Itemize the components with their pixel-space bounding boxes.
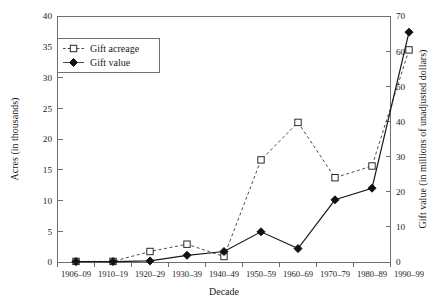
y-axis-right-ticks: 0 10 20 30 40 50 — [386, 11, 406, 267]
y-tick-label: 20 — [43, 134, 53, 144]
y-tick-label: 40 — [43, 11, 53, 21]
legend-label: Gift value — [90, 57, 131, 68]
y-tick-0: 0 — [47, 257, 62, 267]
y-tick-label: 0 — [47, 257, 52, 267]
data-point-marker — [257, 228, 265, 236]
x-tick-label: 1920–29 — [135, 269, 165, 279]
y-tick-label: 25 — [43, 104, 53, 114]
data-point-marker — [184, 241, 190, 247]
x-tick-label: 1950–59 — [246, 269, 276, 279]
y2-tick-2: 20 — [386, 187, 406, 197]
y2-tick-label: 0 — [396, 257, 401, 267]
y-tick-2: 10 — [43, 196, 63, 206]
data-point-marker — [295, 119, 301, 125]
data-point-marker — [369, 163, 375, 169]
y-axis-left-title: Acres (in thousands) — [9, 98, 21, 181]
y2-tick-1: 10 — [386, 222, 406, 232]
y-tick-label: 15 — [43, 165, 53, 175]
data-point-marker — [147, 248, 153, 254]
data-point-marker — [406, 47, 412, 53]
data-point-marker — [183, 251, 191, 259]
y-tick-4: 20 — [43, 134, 63, 144]
y-tick-6: 30 — [43, 73, 63, 83]
x-tick-label: 1970–79 — [320, 269, 350, 279]
x-tick-label: 1940–49 — [209, 269, 239, 279]
y-tick-8: 40 — [43, 11, 63, 21]
line-chart-figure: 0 5 10 15 20 25 — [0, 0, 438, 304]
x-axis-labels: 1906–09 1910–19 1920–29 1930–39 1940–49 … — [61, 269, 424, 279]
data-point-marker — [405, 28, 413, 36]
x-tick-label: 1906–09 — [61, 269, 91, 279]
y-tick-5: 25 — [43, 104, 63, 114]
y-axis-right-title: Gift value (in millions of unadjusted do… — [417, 50, 429, 229]
y2-tick-3: 30 — [386, 152, 406, 162]
y2-tick-label: 40 — [396, 117, 406, 127]
series-gift-acreage — [73, 47, 412, 265]
chart-container: 0 5 10 15 20 25 — [0, 0, 438, 304]
chart-legend: Gift acreage Gift value — [58, 39, 160, 73]
y2-tick-6: 60 — [386, 47, 406, 57]
x-tick-label: 1990–99 — [394, 269, 424, 279]
data-point-marker — [332, 175, 338, 181]
legend-label: Gift acreage — [90, 43, 140, 54]
x-tick-label: 1960–69 — [283, 269, 313, 279]
y-tick-label: 5 — [47, 227, 52, 237]
y2-tick-7: 70 — [386, 11, 406, 21]
y-tick-label: 10 — [43, 196, 53, 206]
data-point-marker — [368, 184, 376, 192]
legend-marker-open-square — [70, 45, 76, 51]
y-tick-label: 35 — [43, 42, 53, 52]
data-point-marker — [258, 157, 264, 163]
y2-tick-label: 70 — [396, 11, 406, 21]
gift-acreage-line — [76, 50, 409, 262]
y-tick-1: 5 — [47, 227, 62, 237]
x-axis-title: Decade — [209, 286, 240, 297]
x-tick-label: 1910–19 — [98, 269, 128, 279]
y2-tick-label: 10 — [396, 222, 406, 232]
x-tick-label: 1980–89 — [357, 269, 387, 279]
y2-tick-label: 20 — [396, 187, 406, 197]
data-point-marker — [146, 257, 154, 265]
y2-tick-label: 30 — [396, 152, 406, 162]
y-tick-3: 15 — [43, 165, 63, 175]
x-tick-label: 1930–39 — [172, 269, 202, 279]
legend-item-gift-value[interactable]: Gift value — [63, 57, 131, 68]
y2-tick-0: 0 — [386, 257, 402, 267]
y-tick-label: 30 — [43, 73, 53, 83]
